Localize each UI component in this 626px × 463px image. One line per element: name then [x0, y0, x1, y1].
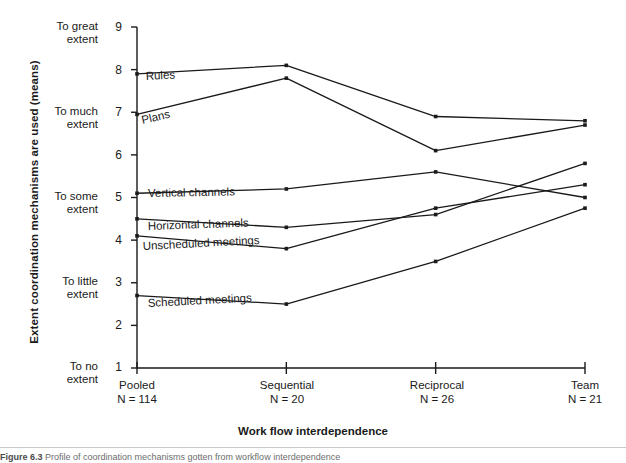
data-point-marker [135, 294, 139, 298]
data-point-marker [285, 247, 289, 251]
figure-caption-number: Figure 6.3 [0, 452, 43, 462]
data-point-marker [135, 217, 139, 221]
x-tick-team-n: N = 21 [525, 392, 626, 406]
data-point-marker [434, 206, 438, 210]
data-point-marker [583, 123, 587, 127]
x-tick-team: Team N = 21 [525, 378, 626, 406]
x-axis-title: Work flow interdependence [0, 425, 626, 437]
data-point-marker [583, 162, 587, 166]
data-point-marker [434, 170, 438, 174]
data-point-marker [583, 119, 587, 123]
series-label-vertical-channels: Vertical channels [148, 185, 235, 199]
data-point-marker [135, 72, 139, 76]
x-tick-pooled-n: N = 114 [77, 392, 197, 406]
caption-divider [0, 447, 626, 448]
data-point-marker [135, 234, 139, 238]
figure-caption: Figure 6.3 Profile of coordination mecha… [0, 452, 626, 462]
data-point-marker [285, 302, 289, 306]
x-tick-reciprocal-label: Reciprocal [410, 379, 464, 391]
data-point-marker [434, 213, 438, 217]
x-tick-team-label: Team [571, 379, 599, 391]
data-point-marker [285, 64, 289, 68]
figure-container: Extent coordination mechanisms are used … [0, 0, 626, 463]
data-point-marker [285, 187, 289, 191]
data-point-marker [583, 206, 587, 210]
data-point-marker [285, 76, 289, 80]
data-point-marker [583, 183, 587, 187]
data-point-marker [135, 191, 139, 195]
data-point-marker [434, 115, 438, 119]
figure-caption-text: Profile of coordination mechanisms gotte… [45, 452, 340, 462]
data-point-marker [135, 113, 139, 117]
series-label-rules: Rules [145, 68, 175, 82]
x-tick-pooled-label: Pooled [119, 379, 155, 391]
data-point-marker [434, 149, 438, 153]
series-line-rules [137, 65, 585, 120]
x-tick-sequential: Sequential N = 20 [227, 378, 347, 406]
data-point-marker [434, 260, 438, 264]
data-point-marker [285, 226, 289, 230]
x-tick-reciprocal-n: N = 26 [377, 392, 497, 406]
x-tick-pooled: Pooled N = 114 [77, 378, 197, 406]
x-tick-sequential-n: N = 20 [227, 392, 347, 406]
series-line-plans [137, 78, 585, 150]
x-tick-reciprocal: Reciprocal N = 26 [377, 378, 497, 406]
data-point-marker [583, 196, 587, 200]
x-tick-sequential-label: Sequential [260, 379, 314, 391]
